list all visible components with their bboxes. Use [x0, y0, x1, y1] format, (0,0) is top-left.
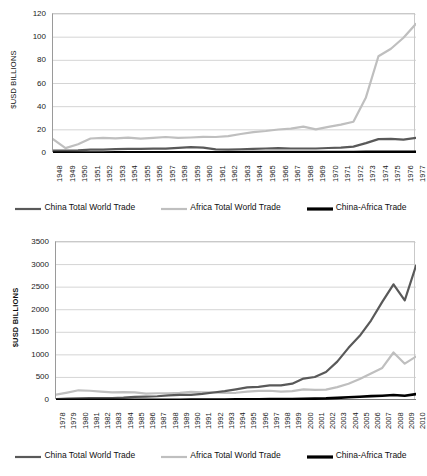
x-axis-tick-label: 1967	[293, 165, 302, 182]
x-axis-tick-label: 1986	[148, 412, 157, 429]
x-axis-tick-label: 1976	[406, 165, 415, 182]
x-axis-tick-label: 2000	[306, 412, 315, 429]
x-axis-tick-label: 2008	[396, 412, 405, 429]
x-axis-tick-label: 1974	[381, 165, 390, 182]
x-axis-tick-label: 1957	[168, 165, 177, 182]
x-axis-tick-label: 1978	[58, 412, 67, 429]
series-line	[53, 152, 416, 153]
y-axis-tick-label: 120	[0, 9, 46, 18]
legend-label: Africa Total World Trade	[190, 450, 280, 460]
x-axis-tick-label: 1951	[93, 165, 102, 182]
y-axis-tick-label: 0	[0, 148, 46, 157]
legend-swatch-icon	[15, 198, 41, 216]
y-axis-tick-label: 1500	[0, 327, 49, 336]
legend-swatch-icon	[307, 446, 333, 464]
y-axis-tick-label: 0	[0, 395, 49, 404]
x-axis-tick-label: 1954	[130, 165, 139, 182]
x-axis-tick-label: 1970	[331, 165, 340, 182]
x-axis-tick-label: 1972	[356, 165, 365, 182]
x-axis-tick-label: 1964	[255, 165, 264, 182]
x-axis-tick-label: 1949	[68, 165, 77, 182]
legend-swatch-icon	[15, 446, 41, 464]
x-axis-tick-label: 1965	[268, 165, 277, 182]
y-axis-tick-label: 1000	[0, 349, 49, 358]
y-axis-tick-label: 20	[0, 124, 46, 133]
series-canvas-top	[53, 14, 416, 153]
x-axis-tick-label: 1948	[55, 165, 64, 182]
x-axis-tick-label: 1960	[205, 165, 214, 182]
x-axis-tick-label: 1988	[171, 412, 180, 429]
x-axis-tick-label: 2001	[317, 412, 326, 429]
legend-label: China Total World Trade	[44, 450, 135, 460]
x-axis-tick-label: 1959	[193, 165, 202, 182]
x-axis-tick-label: 1998	[283, 412, 292, 429]
series-canvas-bottom	[56, 242, 416, 400]
legend-item[interactable]: China-Africa Trade	[307, 446, 407, 464]
x-axis-tick-label: 1981	[92, 412, 101, 429]
x-axis-tick-label: 1992	[216, 412, 225, 429]
x-axis-tick-label: 1983	[114, 412, 123, 429]
legend-top: China Total World TradeAfrica Total Worl…	[0, 198, 422, 216]
x-axis-tick-label: 1952	[105, 165, 114, 182]
x-axis-tick-label: 1963	[243, 165, 252, 182]
series-line	[53, 138, 416, 151]
x-axis-tick-label: 1997	[272, 412, 281, 429]
x-axis-tick-label: 1958	[180, 165, 189, 182]
y-axis-tick-label: 100	[0, 32, 46, 41]
y-axis-tick-label: 2500	[0, 282, 49, 291]
plot-area-top	[52, 13, 415, 152]
legend-label: Africa Total World Trade	[190, 202, 280, 212]
x-axis-tick-label: 1980	[81, 412, 90, 429]
y-axis-tick-label: 3000	[0, 259, 49, 268]
x-axis-tick-label: 1969	[318, 165, 327, 182]
x-axis-tick-label: 1968	[306, 165, 315, 182]
x-axis-tick-label: 1994	[238, 412, 247, 429]
x-axis-tick-label: 1991	[204, 412, 213, 429]
y-axis-tick-label: 40	[0, 101, 46, 110]
x-axis-tick-label: 1977	[418, 165, 427, 182]
x-axis-tick-label: 2009	[407, 412, 416, 429]
x-axis-tick-label: 1979	[69, 412, 78, 429]
x-axis-tick-label: 2007	[384, 412, 393, 429]
x-axis-tick-label: 1993	[227, 412, 236, 429]
x-axis-tick-label: 1975	[393, 165, 402, 182]
legend-label: China-Africa Trade	[336, 202, 407, 212]
legend-label: China-Africa Trade	[336, 450, 407, 460]
legend-item[interactable]: China Total World Trade	[15, 198, 135, 216]
x-axis-tick-label: 1987	[159, 412, 168, 429]
legend-bottom: China Total World TradeAfrica Total Worl…	[0, 446, 422, 464]
legend-item[interactable]: China Total World Trade	[15, 446, 135, 464]
x-axis-tick-label: 1989	[182, 412, 191, 429]
chart-panel-1948-1977: $USD BILLIONS 020406080100120 1948194919…	[0, 0, 422, 228]
y-axis-tick-label: 2000	[0, 304, 49, 313]
y-axis-tick-label: 500	[0, 372, 49, 381]
x-axis-tick-label: 1995	[249, 412, 258, 429]
x-axis-tick-label: 2006	[373, 412, 382, 429]
legend-label: China Total World Trade	[44, 202, 135, 212]
x-axis-tick-label: 1971	[343, 165, 352, 182]
y-axis-tick-label: 60	[0, 78, 46, 87]
x-axis-tick-label: 2004	[351, 412, 360, 429]
plot-area-bottom	[55, 241, 415, 399]
y-axis-tick-label: 3500	[0, 237, 49, 246]
legend-swatch-icon	[161, 198, 187, 216]
legend-swatch-icon	[307, 198, 333, 216]
x-axis-tick-label: 1999	[294, 412, 303, 429]
x-axis-tick-label: 1955	[143, 165, 152, 182]
x-axis-tick-label: 1996	[261, 412, 270, 429]
legend-swatch-icon	[161, 446, 187, 464]
x-axis-tick-label: 1985	[137, 412, 146, 429]
x-axis-tick-label: 1961	[218, 165, 227, 182]
x-axis-tick-label: 1973	[368, 165, 377, 182]
y-axis-tick-label: 80	[0, 55, 46, 64]
x-axis-tick-label: 1990	[193, 412, 202, 429]
legend-item[interactable]: Africa Total World Trade	[161, 446, 280, 464]
x-axis-tick-label: 1953	[118, 165, 127, 182]
legend-item[interactable]: China-Africa Trade	[307, 198, 407, 216]
legend-item[interactable]: Africa Total World Trade	[161, 198, 280, 216]
x-axis-tick-label: 2005	[362, 412, 371, 429]
x-axis-tick-label: 2003	[339, 412, 348, 429]
x-axis-tick-label: 1962	[230, 165, 239, 182]
x-axis-tick-label: 1984	[126, 412, 135, 429]
x-axis-tick-label: 1956	[155, 165, 164, 182]
